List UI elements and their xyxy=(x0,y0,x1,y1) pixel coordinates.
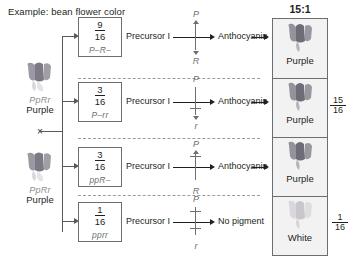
cross-connector xyxy=(40,131,63,132)
flower-icon xyxy=(282,22,318,54)
reaction-arrow-head xyxy=(210,34,215,40)
genotype-label: P–rr xyxy=(79,110,121,120)
result-cell: Purple xyxy=(272,138,328,196)
result-phenotype: Purple xyxy=(272,173,328,184)
enzyme-line xyxy=(195,22,196,50)
fraction-denominator: 16 xyxy=(95,217,106,227)
enzyme-top-label: P xyxy=(183,194,209,204)
row-separator xyxy=(78,195,260,196)
genotype-box: 1 16 pprr xyxy=(78,202,122,242)
precursor-label: Precursor I xyxy=(126,161,170,171)
result-cell: White xyxy=(272,197,328,255)
fraction-denominator: 16 xyxy=(332,223,348,232)
parent-phenotype: Purple xyxy=(4,104,76,115)
result-phenotype: Purple xyxy=(272,114,328,125)
fraction-denominator: 16 xyxy=(330,106,346,115)
pathway-row: Precursor I P r No pigment xyxy=(126,200,266,244)
product-label: Anthocyanin xyxy=(218,31,268,41)
precursor-label: Precursor I xyxy=(126,31,170,41)
summary-fraction-15-16: 15 16 xyxy=(330,96,346,116)
product-label: Anthocyanin xyxy=(218,161,268,171)
enzyme-block-tick xyxy=(190,156,201,157)
fraction-denominator: 16 xyxy=(95,97,106,107)
parent-plant-2: PpRr Purple xyxy=(4,150,76,205)
pathway-row: Precursor I P r Anthocyanin xyxy=(126,80,266,124)
fraction: 3 16 xyxy=(95,150,106,172)
enzyme-line xyxy=(195,87,196,115)
enzyme-arrow-down xyxy=(193,116,199,120)
genotype-label: ppR– xyxy=(79,175,121,185)
reaction-arrow-head xyxy=(210,164,215,170)
enzyme-top-label: P xyxy=(183,74,209,84)
fraction: 9 16 xyxy=(95,20,106,42)
panel-feed-arrow xyxy=(264,99,269,105)
product-label: No pigment xyxy=(218,216,264,226)
pathway-row: Precursor I P R Anthocyanin xyxy=(126,15,266,59)
genotype-box: 3 16 P–rr xyxy=(78,82,122,122)
parent-phenotype: Purple xyxy=(4,194,76,205)
enzyme-bottom-label: R xyxy=(183,56,209,66)
fraction: 1 16 xyxy=(95,205,106,227)
row-separator xyxy=(78,138,260,139)
enzyme-arrow-up xyxy=(193,150,199,154)
fraction-numerator: 15 xyxy=(330,96,346,105)
fraction-numerator: 3 xyxy=(95,85,106,95)
enzyme-indicator: P r xyxy=(183,78,209,126)
enzyme-block-tick xyxy=(190,108,201,109)
fraction-numerator: 1 xyxy=(332,213,348,222)
flower-icon xyxy=(282,81,318,113)
summary-fraction-1-16: 1 16 xyxy=(332,213,348,233)
enzyme-block-tick xyxy=(190,228,201,229)
parent-plant-1: PpRr Purple xyxy=(4,60,76,115)
row-separator xyxy=(78,78,260,79)
enzyme-indicator: P R xyxy=(183,143,209,191)
result-cell: Purple xyxy=(272,79,328,137)
result-phenotype: Purple xyxy=(272,55,328,66)
result-cell: Purple xyxy=(272,20,328,78)
panel-feed-arrow xyxy=(264,34,269,40)
enzyme-top-label: P xyxy=(183,139,209,149)
fraction-denominator: 16 xyxy=(95,162,106,172)
flower-icon xyxy=(20,150,60,184)
enzyme-bottom-label: r xyxy=(183,121,209,131)
ratio-label: 15:1 xyxy=(272,3,328,15)
bracket-vertical xyxy=(62,36,63,232)
diagram-canvas: Example: bean flower color PpRr Purple × xyxy=(0,0,352,262)
enzyme-block-tick xyxy=(190,211,201,212)
fraction-numerator: 1 xyxy=(95,205,106,215)
page-title: Example: bean flower color xyxy=(8,6,125,17)
enzyme-indicator: P R xyxy=(183,13,209,61)
enzyme-bottom-label: r xyxy=(183,241,209,251)
enzyme-arrow-up xyxy=(193,20,199,24)
fraction: 3 16 xyxy=(95,85,106,107)
panel-feed-arrow xyxy=(264,164,269,170)
precursor-label: Precursor I xyxy=(126,216,170,226)
genotype-box: 3 16 ppR– xyxy=(78,147,122,187)
genotype-box: 9 16 P–R– xyxy=(78,17,122,57)
reaction-arrow-head xyxy=(210,219,215,225)
genotype-label: pprr xyxy=(79,230,121,240)
flower-icon xyxy=(282,199,318,231)
enzyme-arrow-down xyxy=(193,51,199,55)
reaction-arrow-head xyxy=(210,99,215,105)
genotype-label: P–R– xyxy=(79,45,121,55)
fraction-numerator: 3 xyxy=(95,150,106,160)
result-phenotype: White xyxy=(272,232,328,243)
enzyme-top-label: P xyxy=(183,9,209,19)
flower-icon xyxy=(282,140,318,172)
fraction-numerator: 9 xyxy=(95,20,106,30)
precursor-label: Precursor I xyxy=(126,96,170,106)
product-label: Anthocyanin xyxy=(218,96,268,106)
flower-icon xyxy=(20,60,60,94)
fraction-denominator: 16 xyxy=(95,32,106,42)
pathway-row: Precursor I P R Anthocyanin xyxy=(126,145,266,189)
enzyme-indicator: P r xyxy=(183,198,209,246)
